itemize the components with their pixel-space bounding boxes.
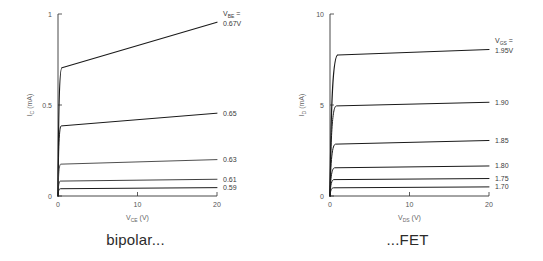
x-axis-label: VDS (V) — [398, 214, 421, 223]
curve-label: 1.75 — [495, 175, 509, 182]
legend-title: VBE = — [223, 10, 240, 19]
axis-spine — [58, 14, 217, 196]
caption-bipolar: bipolar... — [0, 231, 271, 248]
y-axis-label: IC (mA) — [26, 94, 35, 117]
curve-1.90 — [330, 102, 489, 196]
curve-label: 0.61 — [223, 176, 237, 183]
curve-label: 0.59 — [223, 184, 237, 191]
curve-label: 1.85 — [495, 137, 509, 144]
fet-chart-svg: 051001020VDS (V)ID (mA)1.95VVGS =1.901.8… — [272, 0, 543, 232]
curve-1.80 — [330, 166, 489, 196]
bipolar-chart-svg: 00.5101020VCE (V)IC (mA)0.67VVBE =0.650.… — [0, 0, 271, 232]
curve-1.95V — [330, 49, 489, 196]
legend-title: VGS = — [495, 37, 513, 46]
y-tick-label: 10 — [316, 11, 324, 18]
curve-label: 0.65 — [223, 110, 237, 117]
panel-fet: 051001020VDS (V)ID (mA)1.95VVGS =1.901.8… — [272, 0, 543, 261]
y-tick-label: 5 — [320, 102, 324, 109]
figure-root: 00.5101020VCE (V)IC (mA)0.67VVBE =0.650.… — [0, 0, 543, 261]
plot-bipolar: 00.5101020VCE (V)IC (mA)0.67VVBE =0.650.… — [0, 0, 271, 232]
curve-label: 1.90 — [495, 99, 509, 106]
caption-fet: ...FET — [272, 231, 543, 248]
curve-label: 0.67V — [223, 20, 242, 27]
y-tick-label: 1 — [48, 11, 52, 18]
x-axis-label: VCE (V) — [126, 214, 149, 223]
curve-label: 0.63 — [223, 156, 237, 163]
curve-label: 1.70 — [495, 183, 509, 190]
panel-bipolar: 00.5101020VCE (V)IC (mA)0.67VVBE =0.650.… — [0, 0, 271, 261]
y-tick-label: 0.5 — [42, 102, 52, 109]
x-tick-label: 10 — [134, 201, 142, 208]
y-axis-label: ID (mA) — [298, 94, 307, 117]
y-tick-label: 0 — [320, 193, 324, 200]
curve-0.65 — [58, 113, 217, 196]
x-tick-label: 10 — [406, 201, 414, 208]
x-tick-label: 20 — [213, 201, 221, 208]
plot-fet: 051001020VDS (V)ID (mA)1.95VVGS =1.901.8… — [272, 0, 543, 232]
y-tick-label: 0 — [48, 193, 52, 200]
curve-0.67V — [58, 22, 217, 196]
curve-label: 1.95V — [495, 47, 514, 54]
x-tick-label: 0 — [328, 201, 332, 208]
x-tick-label: 0 — [56, 201, 60, 208]
curve-0.63 — [58, 160, 217, 196]
x-tick-label: 20 — [485, 201, 493, 208]
curve-label: 1.80 — [495, 162, 509, 169]
